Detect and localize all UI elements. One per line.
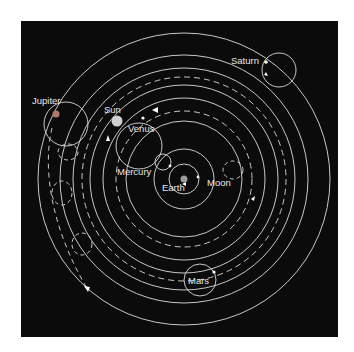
saturn-dot (264, 60, 268, 64)
label-saturn: Saturn (231, 55, 259, 66)
label-moon: Moon (207, 177, 231, 188)
mars-dot (212, 270, 215, 273)
venus-dot (141, 116, 144, 119)
jupiter-dot (53, 111, 60, 118)
label-jupiter: Jupiter (32, 95, 61, 106)
moon-dot (197, 176, 200, 179)
geocentric-diagram: Saturn Jupiter Sun Venus Mercury Earth M… (0, 0, 354, 352)
label-sun: Sun (104, 104, 121, 115)
label-mercury: Mercury (117, 166, 152, 177)
mercury-dot (169, 165, 172, 168)
sun-dot (112, 116, 123, 127)
label-venus: Venus (128, 123, 155, 134)
label-earth: Earth (162, 182, 185, 193)
label-mars: Mars (188, 275, 209, 286)
